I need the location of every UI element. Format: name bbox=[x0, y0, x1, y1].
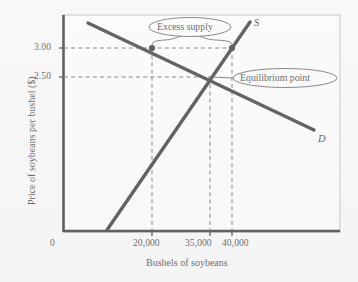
equilibrium-point-label: Equilibrium point bbox=[240, 72, 310, 83]
demand-curve-label: D bbox=[318, 133, 326, 144]
supply-curve-label: S bbox=[254, 17, 259, 28]
point-supply-at-300 bbox=[229, 45, 235, 51]
y-tick-label-300: 3.00 bbox=[34, 42, 51, 52]
x-tick-label-0: 0 bbox=[50, 238, 55, 248]
supply-demand-figure: 3.00 2.50 0 20,000 35,000 40,000 Price o… bbox=[0, 0, 358, 282]
excess-supply-label: Excess supply bbox=[157, 21, 213, 32]
x-tick-label-40000: 40,000 bbox=[222, 238, 249, 248]
y-axis-title: Price of soybeans per bushel ($) bbox=[26, 76, 37, 205]
point-demand-at-300 bbox=[149, 45, 155, 51]
x-tick-label-35000: 35,000 bbox=[185, 238, 212, 248]
x-axis-title: Bushels of soybeans bbox=[146, 257, 228, 268]
x-tick-label-20000: 20,000 bbox=[133, 238, 160, 248]
